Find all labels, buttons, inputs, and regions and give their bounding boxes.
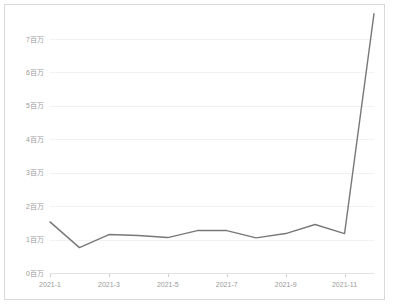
y-axis-tick-label: 3百万	[26, 169, 44, 177]
y-axis-tick-label: 0百万	[26, 270, 44, 278]
y-axis-tick-label: 4百万	[26, 136, 44, 144]
grid-lines	[50, 40, 374, 241]
y-axis-tick-label: 1百万	[26, 236, 44, 244]
x-axis-tick-label: 2021-3	[98, 281, 120, 288]
y-axis-tick-label: 7百万	[26, 36, 44, 44]
y-axis-tick-label: 6百万	[26, 69, 44, 77]
x-axis-tick-label: 2021-1	[39, 281, 61, 288]
series-line-series-1[interactable]	[50, 14, 374, 248]
y-axis-labels: 0百万1百万2百万3百万4百万5百万6百万7百万	[26, 36, 44, 278]
line-chart[interactable]: 0百万1百万2百万3百万4百万5百万6百万7百万 2021-12021-3202…	[5, 5, 386, 301]
y-axis-tick-label: 2百万	[26, 203, 44, 211]
chart-canvas: 0百万1百万2百万3百万4百万5百万6百万7百万 2021-12021-3202…	[5, 5, 386, 301]
x-axis-tick-label: 2021-9	[275, 281, 297, 288]
x-axis-labels: 2021-12021-32021-52021-72021-92021-11	[39, 281, 357, 288]
x-axis-tick-label: 2021-11	[332, 281, 357, 288]
y-axis-tick-label: 5百万	[26, 102, 44, 110]
x-axis-tick-label: 2021-5	[157, 281, 179, 288]
chart-card: 0百万1百万2百万3百万4百万5百万6百万7百万 2021-12021-3202…	[4, 4, 385, 300]
data-series	[50, 14, 374, 248]
x-axis-tick-label: 2021-7	[216, 281, 238, 288]
